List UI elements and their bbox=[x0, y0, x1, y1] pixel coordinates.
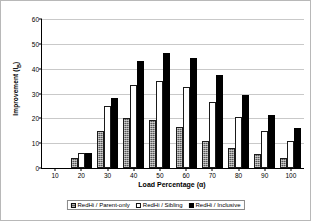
x-axis-tick-label: 10 bbox=[51, 172, 58, 179]
bar bbox=[123, 118, 130, 168]
x-axis-tick-mark bbox=[133, 168, 134, 171]
y-axis-title: Improvement (IB) bbox=[9, 1, 25, 176]
x-axis-tick-label: 50 bbox=[156, 172, 163, 179]
bar bbox=[228, 148, 235, 168]
legend-label: RedHi / Parent-only bbox=[77, 202, 129, 208]
legend-swatch-icon bbox=[189, 203, 194, 208]
x-axis-tick-mark bbox=[264, 168, 265, 171]
bar bbox=[202, 141, 209, 168]
bar bbox=[287, 141, 294, 168]
bar bbox=[104, 106, 111, 168]
bar bbox=[78, 153, 85, 168]
bar bbox=[235, 117, 242, 168]
legend-label: RedHi / Inclusive bbox=[196, 202, 241, 208]
bar bbox=[156, 81, 163, 168]
x-axis-tick-mark bbox=[81, 168, 82, 171]
bar-group: 80 bbox=[225, 19, 251, 168]
y-axis-title-suffix: ) bbox=[12, 62, 19, 64]
plot-area: 0102030405060 102030405060708090100 bbox=[41, 19, 304, 169]
bar-groups: 102030405060708090100 bbox=[42, 19, 304, 168]
x-axis-tick-label: 40 bbox=[130, 172, 137, 179]
bar bbox=[280, 158, 287, 168]
x-axis-tick-mark bbox=[55, 168, 56, 171]
y-axis-tick-label: 50 bbox=[32, 40, 39, 47]
y-axis-tick-label: 40 bbox=[32, 65, 39, 72]
bar bbox=[137, 61, 144, 168]
bar-group: 10 bbox=[42, 19, 68, 168]
legend-swatch-icon bbox=[70, 203, 75, 208]
x-axis-tick-mark bbox=[212, 168, 213, 171]
bar-group: 30 bbox=[94, 19, 120, 168]
x-axis-tick-label: 30 bbox=[104, 172, 111, 179]
bar bbox=[71, 158, 78, 168]
bar bbox=[294, 128, 301, 168]
bar bbox=[130, 85, 137, 168]
bar bbox=[190, 58, 197, 169]
bar-group: 60 bbox=[173, 19, 199, 168]
y-axis-title-text: Improvement (I bbox=[12, 67, 19, 115]
bar bbox=[216, 75, 223, 168]
legend-label: RedHi / Sibling bbox=[143, 202, 183, 208]
bar bbox=[176, 127, 183, 168]
y-axis-tick-label: 10 bbox=[32, 140, 39, 147]
bar-group: 70 bbox=[199, 19, 225, 168]
x-axis-tick-label: 20 bbox=[78, 172, 85, 179]
legend-item[interactable]: RedHi / Parent-only bbox=[70, 202, 129, 208]
legend-swatch-icon bbox=[136, 203, 141, 208]
bar-group: 90 bbox=[252, 19, 278, 168]
bar-group: 100 bbox=[278, 19, 304, 168]
bar-group: 20 bbox=[68, 19, 94, 168]
bar bbox=[85, 153, 92, 168]
x-axis-tick-label: 80 bbox=[235, 172, 242, 179]
x-axis-tick-label: 60 bbox=[182, 172, 189, 179]
bar bbox=[149, 120, 156, 168]
bar bbox=[111, 98, 118, 168]
bar bbox=[183, 87, 190, 168]
x-axis-title: Load Percentage (α) bbox=[41, 181, 303, 188]
legend-item[interactable]: RedHi / Inclusive bbox=[189, 202, 241, 208]
bar-group: 50 bbox=[147, 19, 173, 168]
bar bbox=[268, 115, 275, 168]
x-axis-tick-label: 100 bbox=[285, 172, 296, 179]
x-axis-tick-mark bbox=[186, 168, 187, 171]
bar bbox=[254, 154, 261, 168]
bar bbox=[242, 95, 249, 168]
y-axis-tick-label: 30 bbox=[32, 90, 39, 97]
y-axis-tick-label: 60 bbox=[32, 16, 39, 23]
chart-legend: RedHi / Parent-onlyRedHi / SiblingRedHi … bbox=[66, 200, 244, 210]
bar bbox=[209, 102, 216, 168]
y-axis-tick-label: 20 bbox=[32, 115, 39, 122]
x-axis-tick-mark bbox=[290, 168, 291, 171]
legend-item[interactable]: RedHi / Sibling bbox=[136, 202, 183, 208]
x-axis-tick-label: 90 bbox=[261, 172, 268, 179]
bar-group: 40 bbox=[121, 19, 147, 168]
x-axis-tick-mark bbox=[159, 168, 160, 171]
bar bbox=[97, 131, 104, 168]
x-axis-tick-mark bbox=[107, 168, 108, 171]
bar bbox=[163, 53, 170, 168]
bar bbox=[261, 131, 268, 168]
x-axis-tick-mark bbox=[238, 168, 239, 171]
y-axis-title-subscript: B bbox=[16, 64, 22, 68]
x-axis-tick-label: 70 bbox=[209, 172, 216, 179]
chart-figure: Improvement (IB) 0102030405060 102030405… bbox=[0, 0, 311, 221]
